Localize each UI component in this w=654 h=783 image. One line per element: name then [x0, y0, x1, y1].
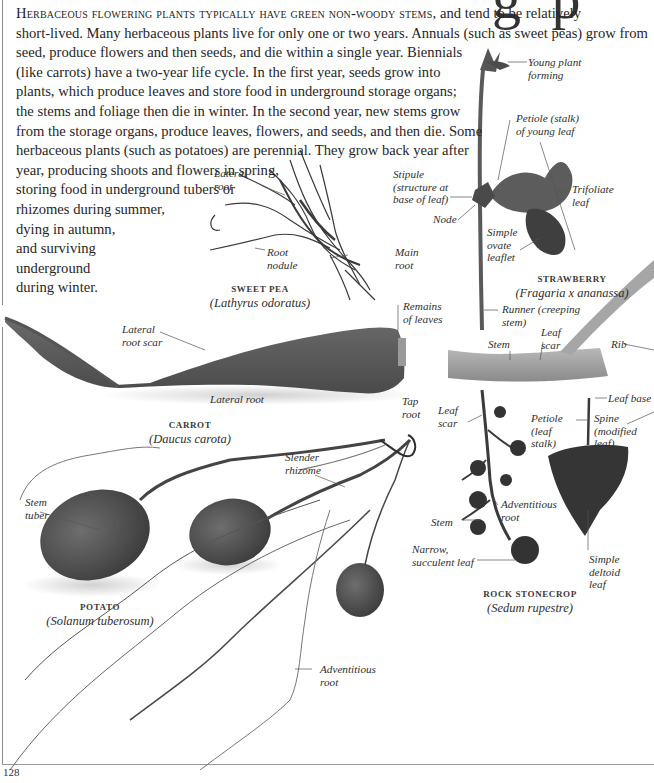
caption-strawberry: STRAWBERRY (Fragaria x ananassa) — [490, 272, 654, 300]
scientific-name: (Solanum tuberosum) — [30, 614, 170, 628]
scientific-name: (Daucus carota) — [125, 432, 255, 446]
common-name: ROCK STONECROP — [455, 587, 605, 601]
scientific-name: (Sedum rupestre) — [455, 601, 605, 615]
common-name: STRAWBERRY — [490, 272, 654, 286]
label-main-root: Main root — [395, 246, 419, 271]
label-spine: Spine (modified leaf) — [594, 412, 637, 450]
label-lateral-root: Lateral root — [214, 167, 247, 192]
label-remains-of-leaves: Remains of leaves — [403, 300, 442, 325]
intro-line: dying in autumn, — [16, 220, 654, 240]
scientific-name: (Fragaria x ananassa) — [490, 286, 654, 300]
intro-line: and surviving — [16, 239, 654, 259]
label-tap-root: Tap root — [402, 395, 420, 420]
label-trifoliate-leaf: Trifoliate leaf — [572, 183, 614, 208]
label-adventitious-root-potato: Adventitious root — [320, 663, 376, 688]
scientific-name: (Lathyrus odoratus) — [190, 296, 330, 310]
intro-line-1: Herbaceous flowering plants typically ha… — [16, 4, 654, 24]
common-name: SWEET PEA — [190, 282, 330, 296]
caption-potato: POTATO (Solanum tuberosum) — [30, 600, 170, 628]
label-petiole-leaf-stalk: Petiole (leaf stalk) — [531, 412, 563, 450]
intro-line: herbaceous plants (such as potatoes) are… — [16, 141, 654, 161]
caption-carrot: CARROT (Daucus carota) — [125, 418, 255, 446]
label-lateral-root-scar: Lateral root scar — [122, 323, 162, 348]
common-name: CARROT — [125, 418, 255, 432]
label-petiole-young-leaf: Petiole (stalk) of young leaf — [516, 112, 579, 137]
label-node: Node — [433, 213, 457, 226]
label-young-plant: Young plant forming — [528, 56, 581, 81]
label-slender-rhizome: Slender rhizome — [285, 451, 321, 476]
intro-paragraph: Herbaceous flowering plants typically ha… — [16, 4, 654, 298]
common-name: POTATO — [30, 600, 170, 614]
intro-line: short-lived. Many herbaceous plants live… — [16, 24, 654, 44]
label-leaf-base: Leaf base — [608, 392, 651, 405]
intro-line: rhizomes during summer, — [16, 200, 654, 220]
caption-sweet-pea: SWEET PEA (Lathyrus odoratus) — [190, 282, 330, 310]
label-narrow-succulent-leaf: Narrow, succulent leaf — [412, 543, 474, 568]
page-number: 128 — [3, 766, 20, 778]
label-runner: Runner (creeping stem) — [502, 303, 580, 328]
label-stem-stonecrop: Stem — [431, 516, 453, 529]
rock-stonecrop — [462, 390, 539, 564]
label-leaf-scar: Leaf scar — [541, 326, 561, 351]
label-simple-ovate-leaflet: Simple ovate leaflet — [487, 226, 517, 264]
intro-line: storing food in underground tubers or — [16, 180, 654, 200]
label-lateral-root-carrot: Lateral root — [210, 393, 264, 406]
label-root-nodule: Root nodule — [267, 246, 297, 271]
label-rib: Rib — [611, 338, 627, 351]
label-stem-tuber: Stem tuber — [25, 496, 49, 521]
carrot — [5, 318, 420, 405]
intro-line: year, producing shoots and flowers in sp… — [16, 161, 654, 181]
intro-lead-smallcaps: Herbaceous flowering plants typically ha… — [16, 5, 436, 21]
label-stem: Stem — [488, 338, 510, 351]
label-leaf-scar-stonecrop: Leaf scar — [438, 404, 458, 429]
label-stipule: Stipule (structure at base of leaf) — [393, 168, 448, 206]
caption-rock-stonecrop: ROCK STONECROP (Sedum rupestre) — [455, 587, 605, 615]
intro-line: plants, which produce leaves and store f… — [16, 82, 654, 102]
label-simple-deltoid-leaf: Simple deltoid leaf — [589, 553, 620, 591]
label-adventitious-root-stonecrop: Adventitious root — [501, 498, 557, 523]
